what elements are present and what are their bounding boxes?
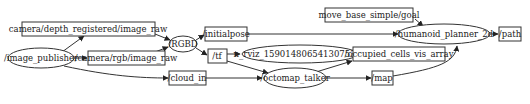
edge-tf-to-octomap (227, 61, 268, 73)
node-rgbd[interactable]: /RGBD (168, 36, 197, 52)
topic-move-base-goal[interactable]: move_base_simple/goal (319, 8, 420, 22)
topic-label: /path (499, 29, 522, 39)
topic-map[interactable]: /map (371, 71, 393, 85)
edge-image-publisher-to-cloud (64, 66, 168, 78)
node-label: /humanoid_planner_2d (395, 29, 494, 40)
topic-initialpose[interactable]: /initialpose (202, 27, 250, 41)
topic-label: /occupied_cells_vis_array (345, 49, 454, 60)
topic-label: /map (371, 73, 393, 83)
topic-depth-image[interactable]: camera/depth_registered/image_raw (9, 22, 168, 36)
topic-cloud-in[interactable]: /cloud_in (168, 71, 207, 85)
edge-rgbd-to-tf (196, 48, 207, 55)
topic-label: move_base_simple/goal (319, 10, 420, 21)
topic-label: camera/depth_registered/image_raw (9, 24, 168, 35)
node-label: /RGBD (168, 39, 197, 49)
edge-image-publisher-to-depth (62, 36, 84, 52)
topic-label: /camera/rgb/image_raw (75, 53, 178, 64)
topic-label: /cloud_in (168, 73, 207, 84)
node-label: /octomap_talker (260, 73, 330, 84)
topic-occupied-cells[interactable]: /occupied_cells_vis_array (345, 47, 454, 61)
topic-label: /tf (212, 51, 222, 61)
ros-node-graph: /image_publisher camera/depth_registered… (0, 0, 530, 104)
topic-rgb-image[interactable]: /camera/rgb/image_raw (75, 51, 178, 65)
topic-path[interactable]: /path (499, 27, 522, 41)
topic-label: /initialpose (202, 29, 250, 39)
node-label: /image_publisher (4, 53, 79, 64)
node-image-publisher[interactable]: /image_publisher (4, 48, 79, 68)
topic-tf[interactable]: /tf (208, 49, 227, 63)
node-humanoid-planner-2d[interactable]: /humanoid_planner_2d (395, 24, 494, 44)
